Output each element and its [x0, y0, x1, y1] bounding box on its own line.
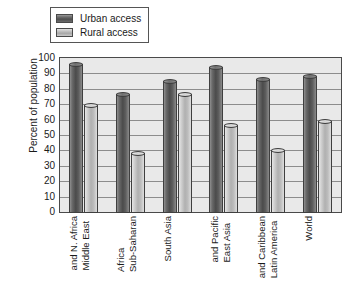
y-tick-label: 30 [29, 161, 55, 171]
x-axis-label-line: Africa [115, 216, 126, 272]
bar-cap [178, 92, 192, 97]
x-axis-labels: Middle Eastand N. AfricaSub-SaharanAfric… [60, 216, 341, 292]
bar-group [69, 58, 98, 213]
bar-group [303, 58, 332, 213]
x-axis-label: Middle Eastand N. Africa [68, 216, 98, 292]
legend-label-rural-access: Rural access [80, 27, 138, 38]
bar-urban [303, 76, 317, 213]
x-axis-label-line: and Caribbean [256, 216, 267, 278]
legend-item-rural-access: Rural access [56, 25, 141, 39]
bar-cap [256, 77, 270, 82]
bar-cap [84, 103, 98, 108]
x-axis-label: Latin Americaand Caribbean [256, 216, 286, 292]
x-axis-label-line: Middle East [80, 216, 91, 270]
y-tick-label: 0 [29, 207, 55, 217]
y-tick-label: 90 [29, 68, 55, 78]
bar-group [256, 58, 285, 213]
y-tick-label: 10 [29, 192, 55, 202]
x-axis-label-line: East Asia [221, 216, 232, 262]
bar-cap [224, 123, 238, 128]
legend-item-urban-access: Urban access [56, 11, 141, 25]
bar-urban [116, 94, 130, 213]
y-tick-label: 70 [29, 99, 55, 109]
chart-legend: Urban access Rural access [50, 7, 149, 43]
y-tick-label: 20 [29, 176, 55, 186]
x-axis-label-line: South Asia [162, 216, 173, 261]
y-tick-label: 100 [29, 53, 55, 63]
x-axis-label: East Asiaand Pacific [209, 216, 239, 292]
y-tick-label: 50 [29, 130, 55, 140]
bar-rural [271, 150, 285, 213]
x-axis-label-line: and Pacific [209, 216, 220, 262]
x-axis-label: World [303, 216, 333, 292]
bar-cap [303, 74, 317, 79]
bar-chart: Urban access Rural access Percent of pop… [0, 0, 351, 293]
bar-group [116, 58, 145, 213]
bar-urban [69, 64, 83, 213]
x-axis-label-line: Sub-Saharan [127, 216, 138, 272]
bars-layer [60, 58, 341, 213]
bar-rural [224, 125, 238, 213]
legend-swatch-rural-access [56, 28, 73, 37]
legend-swatch-urban-access [56, 14, 73, 23]
bar-cap [116, 92, 130, 97]
x-axis-label: Sub-SaharanAfrica [115, 216, 145, 292]
bar-cap [131, 151, 145, 156]
x-axis-label-line: Latin America [268, 216, 279, 278]
bar-cap [318, 119, 332, 124]
y-tick-label: 40 [29, 145, 55, 155]
bar-urban [256, 79, 270, 213]
y-tick-label: 80 [29, 84, 55, 94]
bar-urban [209, 67, 223, 213]
legend-label-urban-access: Urban access [80, 13, 141, 24]
x-axis-label: South Asia [162, 216, 192, 292]
bar-rural [178, 94, 192, 213]
bar-rural [318, 121, 332, 213]
bar-group [163, 58, 192, 213]
x-axis-label-line: and N. Africa [68, 216, 79, 270]
bar-rural [131, 153, 145, 213]
bar-rural [84, 105, 98, 213]
bar-cap [209, 65, 223, 70]
y-tick-label: 60 [29, 115, 55, 125]
x-axis-label-line: World [303, 216, 314, 241]
bar-group [209, 58, 238, 213]
bar-cap [163, 79, 177, 84]
bar-urban [163, 81, 177, 213]
bar-cap [69, 62, 83, 67]
bar-cap [271, 148, 285, 153]
